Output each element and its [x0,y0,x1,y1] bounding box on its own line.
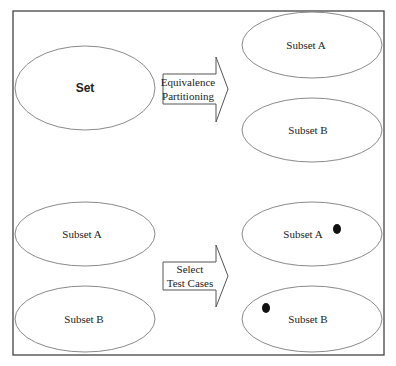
bottom-right-subset-b-ellipse: Subset B [242,286,382,352]
subset-a-label: Subset A [286,39,325,51]
top-subset-a-ellipse: Subset A [242,12,382,78]
arrow-label-line2: Partitioning [162,90,214,102]
arrow-label-line2: Test Cases [167,277,214,289]
bottom-left-subset-b-ellipse: Subset B [15,286,155,352]
set-label: Set [76,81,95,95]
select-test-cases-arrow: Select Test Cases [163,245,228,307]
bottom-right-subset-a-ellipse: Subset A [242,202,382,266]
equivalence-partitioning-arrow: Equivalence Partitioning [161,57,228,122]
test-case-dot [262,303,270,313]
top-subset-b-ellipse: Subset B [242,98,382,162]
test-case-dot [333,224,341,234]
arrow-label-line1: Equivalence [161,76,215,88]
subset-a-label: Subset A [62,228,101,240]
bottom-left-subset-a-ellipse: Subset A [15,202,155,266]
arrow-label-line1: Select [177,263,204,275]
set-ellipse: Set [15,46,155,130]
subset-b-label: Subset B [64,313,103,325]
equivalence-partitioning-diagram: Set Equivalence Partitioning Subset A Su… [0,0,396,366]
subset-a-label: Subset A [283,228,322,240]
subset-b-label: Subset B [288,313,327,325]
subset-b-label: Subset B [288,124,327,136]
